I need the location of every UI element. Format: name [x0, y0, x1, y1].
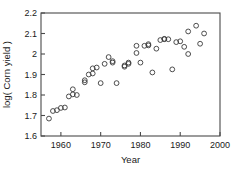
- data-points: [47, 23, 207, 121]
- x-tick-label: 1990: [170, 140, 190, 150]
- data-point-marker: [182, 44, 187, 49]
- data-point-marker: [138, 60, 143, 65]
- data-point-marker: [186, 29, 191, 34]
- data-point-marker: [154, 46, 159, 51]
- y-tick-label: 1.7: [24, 111, 37, 121]
- corn-yield-scatter-figure: 19601970198019902000 1.61.71.81.922.12.2…: [0, 0, 232, 170]
- plot-frame: [41, 13, 220, 136]
- data-point-marker: [170, 67, 175, 72]
- data-point-marker: [134, 43, 139, 48]
- x-axis-title: Year: [121, 154, 140, 165]
- y-tick-label: 1.9: [24, 70, 37, 80]
- y-tick-label: 2.2: [24, 8, 37, 18]
- x-axis-ticks: 19601970198019902000: [51, 132, 230, 150]
- data-point-marker: [150, 70, 155, 75]
- data-point-marker: [134, 51, 139, 56]
- x-tick-label: 1980: [130, 140, 150, 150]
- x-tick-label: 1970: [91, 140, 111, 150]
- data-point-marker: [194, 23, 199, 28]
- plot-frame-rect: [41, 13, 220, 136]
- data-point-marker: [114, 81, 119, 86]
- y-tick-label: 2.1: [24, 29, 37, 39]
- x-tick-label: 1960: [51, 140, 71, 150]
- y-axis-title: log( Corn yield ): [1, 41, 12, 108]
- data-point-marker: [186, 52, 191, 57]
- x-tick-label: 2000: [210, 140, 230, 150]
- y-tick-label: 2: [32, 49, 37, 59]
- chart-canvas: 19601970198019902000 1.61.71.81.922.12.2…: [0, 0, 232, 170]
- data-point-marker: [198, 41, 203, 46]
- data-point-marker: [98, 81, 103, 86]
- data-point-marker: [106, 55, 111, 60]
- data-point-marker: [202, 31, 207, 36]
- data-point-marker: [47, 116, 52, 121]
- data-point-marker: [102, 61, 107, 66]
- y-axis-ticks: 1.61.71.81.922.12.2: [24, 8, 45, 141]
- y-tick-label: 1.6: [24, 131, 37, 141]
- data-point-marker: [70, 87, 75, 92]
- y-tick-label: 1.8: [24, 90, 37, 100]
